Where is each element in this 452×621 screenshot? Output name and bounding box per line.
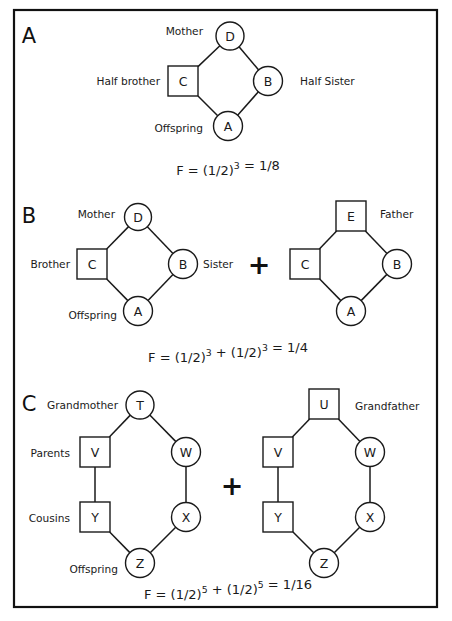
pedigree-edge-d-b (147, 227, 173, 254)
pedigree-node-x: X (356, 503, 385, 532)
role-label-parents: Parents (31, 447, 70, 459)
pedigree-node-w: W (356, 438, 385, 467)
node-label: B (264, 74, 273, 89)
pedigree-node-b: B (254, 67, 283, 96)
pedigree-node-v: V (263, 437, 293, 467)
pedigree-edge-b-a (238, 92, 259, 115)
role-label-sister: Sister (203, 258, 234, 270)
node-label: C (179, 74, 188, 89)
role-label-half-brother: Half brother (96, 75, 160, 87)
node-label: B (179, 257, 188, 272)
pedigree-edge-e-b (365, 231, 387, 254)
plus-sign-panel-c: + (221, 470, 244, 501)
formula-panel-b: F = (1/2)3 + (1/2)3 = 1/4 (148, 340, 308, 365)
node-label: V (274, 445, 283, 460)
node-label: X (366, 510, 375, 525)
pedigree-node-c: C (77, 249, 107, 279)
node-label: U (319, 397, 328, 412)
pedigree-edge-d-b (239, 47, 259, 70)
pedigree-edge-x-z (150, 527, 175, 552)
node-label: Z (320, 556, 329, 571)
role-label-half-sister: Half Sister (300, 75, 355, 87)
role-label-grandfather: Grandfather (355, 400, 420, 412)
pedigree-node-x: X (172, 503, 201, 532)
pedigree-node-b: B (383, 250, 412, 279)
role-label-father: Father (380, 208, 414, 220)
pedigree-node-z: Z (126, 549, 155, 578)
node-label: A (224, 119, 233, 134)
pedigree-node-d: D (125, 204, 152, 231)
plus-sign-panel-b: + (248, 249, 271, 280)
pedigree-node-u: U (309, 389, 339, 419)
panel-letter-a: A (22, 24, 37, 48)
role-label-cousins: Cousins (29, 512, 70, 524)
pedigree-node-y: Y (80, 502, 110, 532)
pedigree-node-w: W (172, 438, 201, 467)
node-label: E (347, 209, 355, 224)
pedigree-edge-y-z (293, 532, 314, 553)
role-label-offspring: Offspring (68, 309, 117, 321)
panel-letter-c: C (22, 392, 37, 416)
role-label-mother: Mother (78, 208, 116, 220)
role-label-grandmother: Grandmother (47, 399, 119, 411)
pedigree-edge-x-z (334, 527, 359, 552)
node-label: D (225, 29, 235, 44)
pedigree-edge-c-a (107, 279, 128, 301)
pedigree-edge-t-w (150, 415, 176, 442)
node-label: Y (273, 510, 282, 525)
formula-panel-a: F = (1/2)3 = 1/8 (176, 158, 280, 178)
pedigree-node-c: C (290, 249, 320, 279)
node-label: X (182, 510, 191, 525)
pedigree-edge-e-c (319, 231, 336, 249)
node-label: A (347, 304, 356, 319)
pedigree-node-t: T (126, 391, 154, 419)
panel-letters-layer: ABC (22, 24, 37, 416)
panel-letter-b: B (22, 204, 36, 228)
role-label-offspring: Offspring (154, 122, 203, 134)
pedigree-node-d: D (216, 22, 244, 50)
pedigree-edge-y-z (110, 532, 130, 553)
pedigree-edge-d-c (198, 46, 220, 67)
pedigree-node-b: B (169, 250, 198, 279)
node-label: Y (90, 510, 99, 525)
pedigree-node-v: V (80, 437, 110, 467)
pedigree-edge-b-a (361, 274, 387, 300)
pedigree-edge-u-w (338, 419, 360, 442)
pedigree-edge-b-a (148, 274, 173, 300)
node-label: B (393, 257, 402, 272)
node-label: C (301, 257, 310, 272)
pedigree-edge-c-a (198, 96, 218, 116)
node-label: Z (136, 556, 145, 571)
node-label: T (135, 398, 144, 413)
pedigree-node-a: A (337, 297, 366, 326)
pedigree-edge-u-v (292, 419, 309, 437)
node-label: D (133, 210, 143, 225)
pedigree-node-a: A (214, 112, 243, 141)
pedigree-node-z: Z (310, 549, 339, 578)
pedigree-edge-d-c (107, 227, 129, 249)
pedigree-edge-c-a (320, 279, 341, 301)
role-label-mother: Mother (166, 25, 204, 37)
formula-panel-c: F = (1/2)5 + (1/2)5 = 1/16 (144, 577, 312, 602)
role-label-offspring: Offspring (69, 563, 118, 575)
pedigree-node-y: Y (263, 502, 293, 532)
figure-canvas: DCBADCBAECBATVWYXZUVWYXZ MotherHalf brot… (0, 0, 452, 621)
role-label-brother: Brother (30, 258, 70, 270)
node-label: A (134, 304, 143, 319)
node-label: W (364, 445, 376, 460)
pedigree-node-c: C (168, 66, 198, 96)
node-label: V (91, 445, 100, 460)
node-label: C (88, 257, 97, 272)
pedigree-edge-t-v (109, 415, 130, 437)
pedigree-node-a: A (124, 297, 153, 326)
pedigree-node-e: E (336, 201, 366, 231)
node-label: W (180, 445, 192, 460)
pedigree-figure: DCBADCBAECBATVWYXZUVWYXZ MotherHalf brot… (0, 0, 452, 621)
